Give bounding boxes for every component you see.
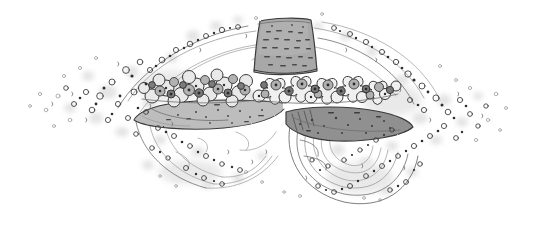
hat-sketch-illustration bbox=[0, 0, 534, 226]
sketch-artboard bbox=[0, 0, 534, 226]
hat-crown bbox=[254, 18, 317, 74]
